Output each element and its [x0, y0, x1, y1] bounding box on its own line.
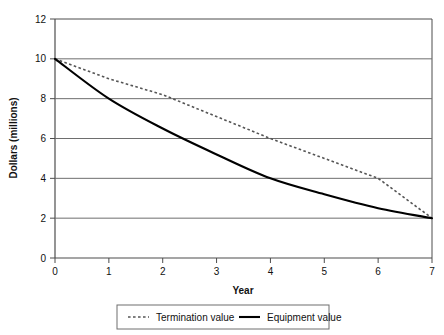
y-axis-title: Dollars (millions)	[8, 97, 19, 178]
y-tick-label-0: 0	[40, 253, 46, 264]
y-tick-label-10: 10	[35, 53, 47, 64]
x-tick-label-0: 0	[52, 266, 58, 277]
y-tick-label-8: 8	[40, 93, 46, 104]
x-tick-label-3: 3	[214, 266, 220, 277]
y-tick-label-2: 2	[40, 213, 46, 224]
x-tick-label-4: 4	[268, 266, 274, 277]
y-tick-label-12: 12	[35, 14, 47, 25]
x-tick-label-6: 6	[375, 266, 381, 277]
y-tick-label-4: 4	[40, 173, 46, 184]
chart-background	[0, 0, 444, 335]
x-axis-title: Year	[232, 285, 253, 296]
x-tick-label-1: 1	[106, 266, 112, 277]
x-tick-label-7: 7	[429, 266, 435, 277]
chart-container: 0 2 4 6 8 10 12 0 1 2 3 4 5 6	[0, 0, 444, 335]
legend-label-equipment-value: Equipment value	[267, 312, 342, 323]
y-tick-label-6: 6	[40, 133, 46, 144]
legend-label-termination-value: Termination value	[156, 312, 235, 323]
x-tick-label-2: 2	[160, 266, 166, 277]
legend: Termination value Equipment value	[117, 305, 342, 329]
line-chart: 0 2 4 6 8 10 12 0 1 2 3 4 5 6	[0, 0, 444, 335]
x-tick-label-5: 5	[322, 266, 328, 277]
